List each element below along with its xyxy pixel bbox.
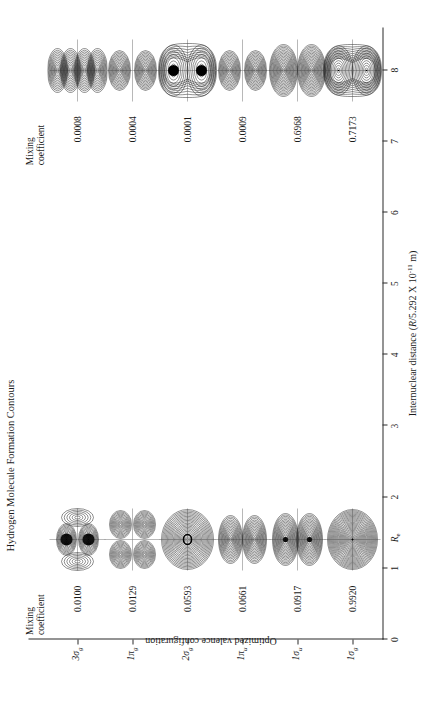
x-tick-3 xyxy=(382,425,387,426)
x-tick-label-2: 2 xyxy=(389,494,399,499)
x-tick-4 xyxy=(382,353,387,354)
contour-panel-bonded-2σg xyxy=(157,506,217,572)
x-tick-1 xyxy=(382,567,387,568)
column-header-bonded: Mixingcoefficient xyxy=(24,562,46,634)
y-tick-label-1σg: 1σg xyxy=(346,647,359,671)
mixing-coefficient-separated-1σg: 0.7173 xyxy=(347,116,357,142)
mixing-coefficient-separated-1πg: 0.0004 xyxy=(127,116,137,142)
contour-panel-bonded-3σg xyxy=(47,506,107,572)
x-tick-2 xyxy=(382,496,387,497)
contour-panel-bonded-1σu xyxy=(267,506,327,572)
contour-panel-bonded-1σg xyxy=(322,506,382,572)
contour-panel-bonded-1πg xyxy=(102,506,162,572)
mixing-coefficient-separated-2σg: 0.0001 xyxy=(182,116,192,142)
x-tick-6 xyxy=(382,211,387,212)
plot-area: Hydrogen Molecule Formation Contours 012… xyxy=(0,0,433,701)
x-tick-7 xyxy=(382,140,387,141)
y-tick-label-1πg: 1πg xyxy=(126,647,139,671)
mixing-coefficient-bonded-1πg: 0.0129 xyxy=(127,585,137,611)
x-tick-label-5: 5 xyxy=(389,281,399,286)
contour-panel-separated-1πg xyxy=(102,37,162,103)
mixing-coefficient-bonded-3σg: 0.0100 xyxy=(72,585,82,611)
x-tick-label-7: 7 xyxy=(389,139,399,144)
x-tick-5 xyxy=(382,282,387,283)
x-tick-label-3: 3 xyxy=(389,423,399,428)
x-tick-label-8: 8 xyxy=(389,67,399,72)
y-tick-label-2σg: 2σg xyxy=(181,647,194,671)
x-tick-8 xyxy=(382,69,387,70)
contour-panel-separated-1σu xyxy=(267,37,327,103)
x-axis-title: Internuclear distance (R/5.292 X 10-11 m… xyxy=(405,27,417,639)
figure-canvas: Hydrogen Molecule Formation Contours 012… xyxy=(0,0,433,701)
contour-panel-separated-1σg xyxy=(322,37,382,103)
page-title: Hydrogen Molecule Formation Contours xyxy=(4,379,15,551)
x-tick-label-1: 1 xyxy=(389,565,399,570)
y-tick-label-1πu: 1πu xyxy=(236,647,249,671)
re-marker-label: Re xyxy=(389,533,402,542)
x-tick-label-6: 6 xyxy=(389,210,399,215)
x-tick-label-4: 4 xyxy=(389,352,399,357)
mixing-coefficient-separated-1σu: 0.6968 xyxy=(292,116,302,142)
mixing-coefficient-separated-3σg: 0.0008 xyxy=(72,116,82,142)
mixing-coefficient-bonded-1πu: 0.0661 xyxy=(237,585,247,611)
mixing-coefficient-bonded-1σu: 0.0917 xyxy=(292,585,302,611)
mixing-coefficient-bonded-2σg: 0.0593 xyxy=(182,585,192,611)
mixing-coefficient-bonded-1σg: 0.9920 xyxy=(347,585,357,611)
y-axis-title: Optimized valence configuration xyxy=(81,636,341,647)
y-tick-3σg xyxy=(77,639,78,644)
column-header-separated: Mixingcoefficient xyxy=(24,93,46,165)
mixing-coefficient-separated-1πu: 0.0009 xyxy=(237,116,247,142)
contour-panel-separated-1πu xyxy=(212,37,272,103)
y-tick-1σg xyxy=(352,639,353,644)
contour-panel-separated-2σg xyxy=(157,37,217,103)
y-tick-label-3σg: 3σg xyxy=(71,647,84,671)
contour-panel-bonded-1πu xyxy=(212,506,272,572)
y-tick-label-1σu: 1σu xyxy=(291,647,304,671)
x-tick-0 xyxy=(382,638,387,639)
x-tick-label-0: 0 xyxy=(389,637,399,642)
contour-panel-separated-3σg xyxy=(47,37,107,103)
